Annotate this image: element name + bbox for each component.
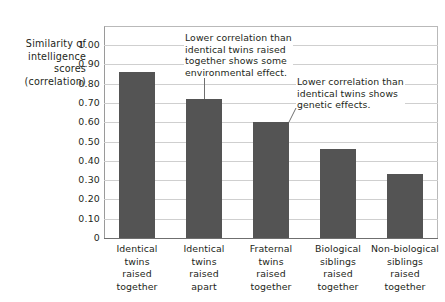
y-tick-label: 1.00 <box>66 39 100 50</box>
x-category-label-line: raised <box>366 268 444 281</box>
y-tick-label: 0 <box>66 232 100 243</box>
bar <box>320 149 356 238</box>
annotation-2-line-3: genetic effects. <box>297 99 404 111</box>
annotation-1-line-3: together shows some <box>185 55 292 67</box>
bar <box>387 174 423 238</box>
y-tick-label: 0.40 <box>66 155 100 166</box>
annotation-1-line-4: environmental effect. <box>185 67 292 79</box>
chart-figure: Similarity of intelligence scores (corre… <box>0 0 445 302</box>
annotation-2-line-2: identical twins shows <box>297 88 404 100</box>
x-axis-line <box>104 238 438 239</box>
y-tick-label: 0.20 <box>66 193 100 204</box>
y-tick-label: 0.10 <box>66 213 100 224</box>
y-tick-label: 0.70 <box>66 97 100 108</box>
bar <box>186 99 222 238</box>
annotation-2-leader-line <box>289 108 296 122</box>
annotation-2-line-1: Lower correlation than <box>297 76 404 88</box>
y-tick-label: 0.50 <box>66 136 100 147</box>
x-category-label: Non-biologicalsiblingsraisedtogether <box>366 243 444 293</box>
x-category-label-line: Non-biological <box>366 243 444 256</box>
y-tick-label: 0.80 <box>66 78 100 89</box>
annotation-1-leader-line <box>204 78 205 99</box>
bar <box>119 72 155 238</box>
annotation-environmental-effect: Lower correlation than identical twins r… <box>184 32 293 78</box>
x-category-label-line: siblings <box>366 256 444 269</box>
annotation-1-line-2: identical twins raised <box>185 44 292 56</box>
y-tick-label: 0.90 <box>66 58 100 69</box>
annotation-genetic-effects: Lower correlation than identical twins s… <box>296 76 405 111</box>
bar <box>253 122 289 238</box>
annotation-1-line-1: Lower correlation than <box>185 32 292 44</box>
x-category-label-line: together <box>366 281 444 294</box>
y-tick-label: 0.60 <box>66 116 100 127</box>
y-tick-label: 0.30 <box>66 174 100 185</box>
